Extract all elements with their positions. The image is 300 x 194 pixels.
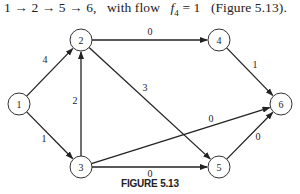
edge-3-6 <box>91 108 269 164</box>
svg-text:2: 2 <box>79 35 84 46</box>
edge-4-6 <box>227 48 273 95</box>
node-6: 6 <box>270 93 292 115</box>
edge-label-4-6: 1 <box>253 59 258 70</box>
figure-caption: FIGURE 5.13 <box>121 178 179 189</box>
svg-text:6: 6 <box>279 99 284 110</box>
node-4: 4 <box>208 29 230 51</box>
edge-label-1-2: 4 <box>43 54 48 65</box>
node-3: 3 <box>70 156 92 178</box>
edge-1-2 <box>27 49 73 96</box>
edge-label-3-6: 0 <box>209 113 214 124</box>
edge-label-3-2: 2 <box>73 95 78 106</box>
svg-text:3: 3 <box>79 162 84 173</box>
edge-2-5 <box>89 47 210 158</box>
node-5: 5 <box>208 156 230 178</box>
edge-label-1-3: 1 <box>42 133 47 144</box>
edge-1-3 <box>27 112 73 159</box>
edge-label-5-6: 0 <box>256 131 261 142</box>
edge-label-2-5: 3 <box>142 82 147 93</box>
node-2: 2 <box>70 29 92 51</box>
svg-text:4: 4 <box>217 35 222 46</box>
edge-label-2-4: 0 <box>148 26 153 37</box>
svg-text:5: 5 <box>217 162 222 173</box>
svg-text:1: 1 <box>17 99 22 110</box>
node-1: 1 <box>8 93 30 115</box>
network-graph: 412031000 123456 <box>0 0 300 194</box>
